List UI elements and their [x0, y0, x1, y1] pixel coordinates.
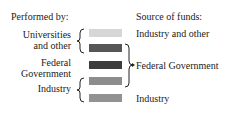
swatch-universities-federal [89, 44, 122, 52]
source-industry-other-label: Industry and other [136, 28, 209, 39]
left-brace-universities-icon [76, 28, 86, 54]
performer-industry-label: Industry [38, 83, 71, 94]
right-brace-federal-icon [124, 43, 136, 88]
performer-universities-label: Universities and other [23, 29, 71, 51]
performer-universities-line1: Universities [23, 29, 71, 40]
performer-federal-label: Federal Government [21, 57, 71, 79]
swatch-universities-industry [89, 29, 122, 37]
swatch-industry-industry [89, 94, 122, 102]
performer-federal-line1: Federal [21, 57, 71, 68]
source-industry-label: Industry [136, 93, 169, 104]
swatch-federal-federal [89, 61, 122, 69]
source-of-funds-title: Source of funds: [136, 11, 202, 22]
left-brace-industry-icon [76, 77, 86, 103]
performer-federal-line2: Government [21, 68, 71, 79]
performer-universities-line2: and other [23, 40, 71, 51]
swatch-industry-federal [89, 77, 122, 85]
source-federal-label: Federal Government [136, 60, 218, 71]
performed-by-title: Performed by: [11, 11, 69, 22]
